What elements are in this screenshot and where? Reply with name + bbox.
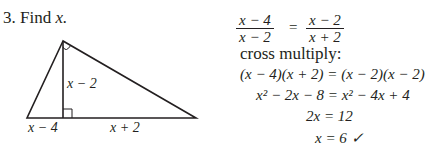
- proportion-right: x − 2 x + 2: [306, 12, 344, 45]
- right-denominator: x + 2: [306, 29, 344, 45]
- equation-line-2: x² − 2x − 8 = x² − 4x + 4: [256, 87, 410, 104]
- left-numerator: x − 4: [236, 12, 274, 29]
- equation-line-4-answer: x = 6 ✓: [315, 129, 364, 147]
- left-segment-label: x − 4: [28, 120, 58, 136]
- altitude-label: x − 2: [67, 76, 97, 92]
- right-numerator: x − 2: [306, 12, 344, 29]
- step-label: cross multiply:: [240, 44, 342, 64]
- proportion-left: x − 4 x − 2: [236, 12, 274, 45]
- left-denominator: x − 2: [236, 29, 274, 45]
- triangle-outline: [27, 41, 196, 118]
- right-segment-label: x + 2: [110, 120, 140, 136]
- proportion-equals: =: [289, 19, 297, 36]
- equation-line-3: 2x = 12: [306, 108, 353, 125]
- right-angle-marker-foot: [63, 109, 72, 118]
- equation-line-1: (x − 4)(x + 2) = (x − 2)(x − 2): [240, 66, 425, 83]
